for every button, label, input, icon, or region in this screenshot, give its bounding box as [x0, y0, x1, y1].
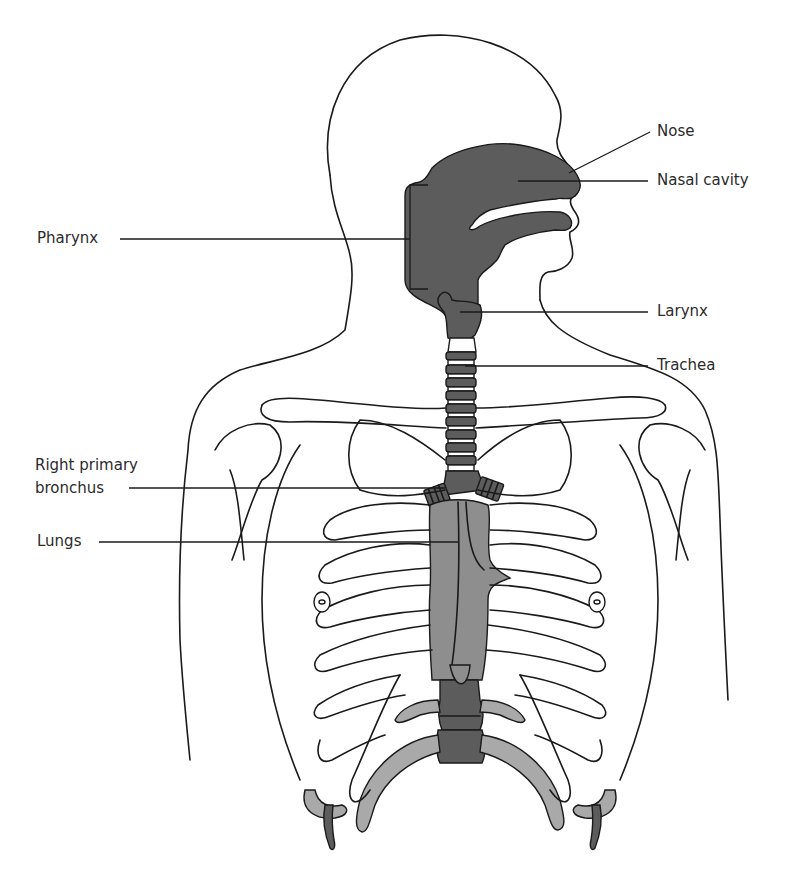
label-nose: Nose [657, 122, 694, 141]
nasal-cavity-pharynx [405, 144, 580, 315]
label-right-primary-bronchus-line2: bronchus [35, 479, 104, 498]
spine [437, 665, 485, 763]
label-lungs: Lungs [37, 532, 81, 551]
label-trachea: Trachea [657, 356, 716, 375]
label-pharynx: Pharynx [37, 229, 98, 248]
lungs [429, 500, 510, 680]
trachea [446, 338, 476, 471]
label-right-primary-bronchus-line1: Right primary [35, 456, 138, 475]
label-larynx: Larynx [657, 302, 708, 321]
label-nasal-cavity: Nasal cavity [657, 171, 749, 190]
